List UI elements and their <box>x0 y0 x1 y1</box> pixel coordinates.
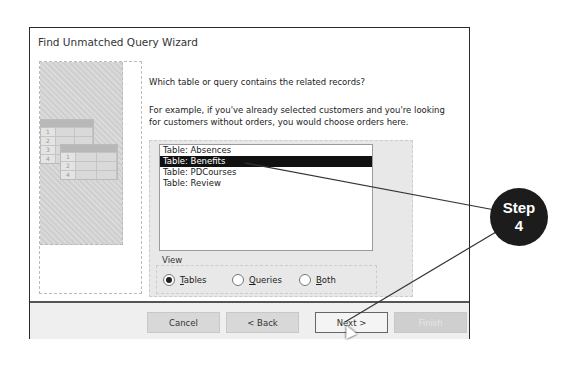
step-number: 4 <box>490 217 548 235</box>
callout-lines <box>0 0 576 373</box>
step-callout-badge: Step 4 <box>490 188 548 246</box>
step-label: Step <box>490 199 548 217</box>
